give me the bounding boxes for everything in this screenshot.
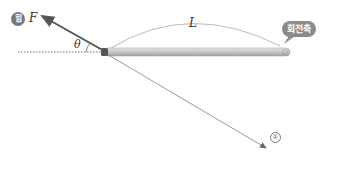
angle-arc [86,43,90,52]
ruler [104,48,290,56]
angle-label: θ [74,38,81,51]
line-1 [105,53,266,148]
force-badge: 힘 [11,12,25,26]
axis-bubble: 회전축 [282,21,316,37]
pivot-end [101,48,108,56]
force-label: F [29,11,37,25]
line-marker: ① [270,132,281,143]
length-label: L [189,16,197,30]
